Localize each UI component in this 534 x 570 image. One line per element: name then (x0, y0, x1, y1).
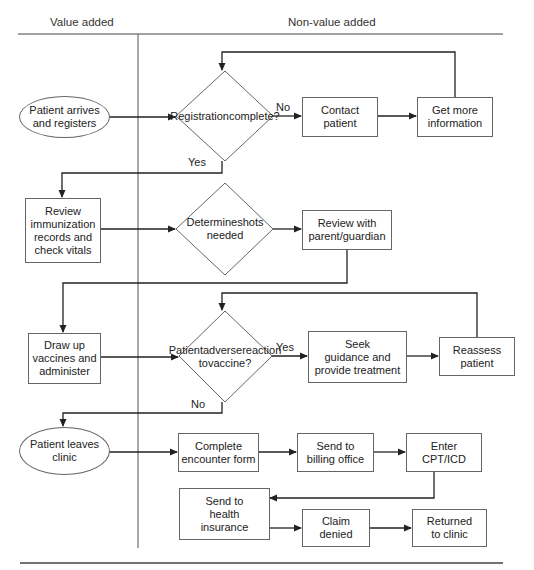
node-text: Contact (321, 104, 359, 117)
node-text: information (428, 117, 482, 130)
node-text: parent/guardian (308, 230, 385, 243)
node-text: Draw up (32, 339, 96, 352)
node-text: check vitals (31, 244, 96, 257)
node-patient-leaves: Patient leavesclinic (19, 427, 110, 475)
node-text: patient (321, 117, 359, 130)
node-text: Registration (170, 110, 229, 122)
lane-title-non-value-added: Non-value added (288, 16, 376, 28)
node-text: Patient (169, 344, 203, 356)
node-text: complete? (229, 110, 280, 122)
node-text: Send to (307, 440, 364, 453)
node-registration-complete: Registrationcomplete? (186, 96, 264, 136)
node-returned-clinic: Returnedto clinic (412, 509, 487, 547)
node-claim-denied: Claimdenied (302, 509, 370, 547)
node-adverse-reaction: Patientadversereaction tovaccine? (188, 330, 262, 384)
node-text: Complete (182, 440, 256, 453)
node-enter-cpt-icd: EnterCPT/ICD (406, 433, 482, 472)
node-text: and registers (29, 117, 99, 130)
node-text: Enter (422, 440, 466, 453)
node-complete-encounter: Completeencounter form (178, 433, 259, 472)
node-text: Get more (428, 104, 482, 117)
node-text: records and (31, 231, 96, 244)
node-text: Returned (427, 515, 472, 528)
node-text: Review with (308, 217, 385, 230)
node-text: billing office (307, 453, 364, 466)
node-text: insurance (201, 521, 249, 534)
node-text: vaccine? (208, 357, 251, 369)
node-text: adverse (203, 344, 242, 356)
node-text: denied (319, 528, 352, 541)
node-get-more-information: Get moreinformation (417, 97, 493, 137)
node-text: provide treatment (315, 364, 401, 377)
node-text: clinic (30, 451, 99, 464)
node-send-billing: Send tobilling office (297, 433, 374, 472)
node-text: vaccines and (32, 352, 96, 365)
flowchart-connectors (0, 0, 534, 570)
node-review-parent-guardian: Review withparent/guardian (302, 210, 392, 250)
node-text: guidance and (315, 351, 401, 364)
node-determine-shots: Determineshots needed (186, 209, 264, 249)
node-text: CPT/ICD (422, 453, 466, 466)
node-review-immunization: Reviewimmunizationrecords andcheck vital… (25, 198, 101, 263)
node-text: Claim (319, 515, 352, 528)
edge-label-adverse-yes: Yes (276, 341, 294, 353)
edge-label-registration-no: No (276, 101, 290, 113)
node-seek-guidance: Seekguidance andprovide treatment (308, 331, 407, 383)
edge-label-adverse-no: No (191, 398, 205, 410)
node-text: encounter form (182, 453, 256, 466)
node-patient-arrives: Patient arrivesand registers (19, 96, 110, 138)
node-reassess-patient: Reassesspatient (439, 337, 515, 376)
node-text: Seek (315, 338, 401, 351)
node-draw-up-vaccines: Draw upvaccines andadminister (28, 333, 101, 384)
node-text: Determine (186, 216, 237, 228)
node-text: patient (453, 357, 501, 370)
lane-title-value-added: Value added (50, 16, 114, 28)
node-text: Reassess (453, 344, 501, 357)
node-text: Review (31, 205, 96, 218)
node-contact-patient: Contactpatient (302, 97, 378, 137)
node-text: Send to (201, 495, 249, 508)
node-text: administer (32, 365, 96, 378)
node-text: Patient leaves (30, 438, 99, 451)
node-text: Patient arrives (29, 104, 99, 117)
node-text: to clinic (427, 528, 472, 541)
node-text: health (201, 508, 249, 521)
node-send-health-insurance: Send tohealthinsurance (179, 488, 270, 540)
node-text: immunization (31, 218, 96, 231)
edge-label-registration-yes: Yes (188, 156, 206, 168)
